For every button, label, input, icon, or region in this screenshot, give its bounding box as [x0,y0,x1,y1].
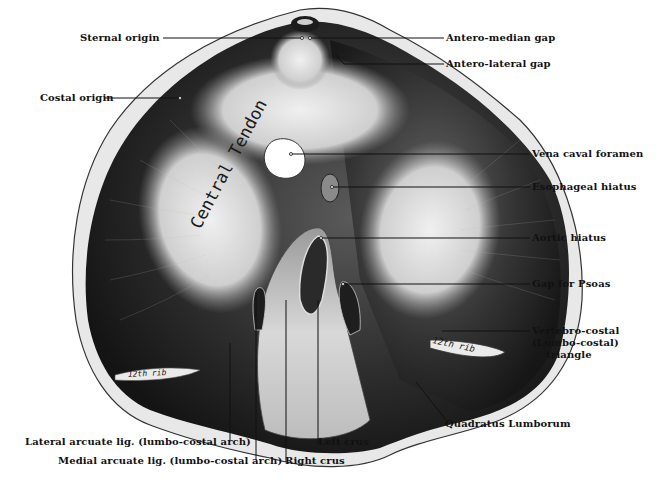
label-gap-for-psoas: Gap for Psoas [532,278,610,290]
label-vena-caval-foramen: Vena caval foramen [532,148,643,160]
esophageal-hiatus-shape [321,174,339,202]
label-aortic-hiatus: Aortic hiatus [532,232,606,244]
label-left-crus: Left crus [318,436,369,448]
label-antero-median-gap: Antero-median gap [446,32,555,44]
label-medial-arcuate-lig: Medial arcuate lig. (lumbo-costal arch) [58,455,282,467]
label-right-crus: Right crus [285,455,345,467]
label-lateral-arcuate-lig: Lateral arcuate lig. (lumbo-costal arch) [25,436,251,448]
vena-caval-foramen-shape [264,139,305,179]
label-antero-lateral-gap: Antero-lateral gap [446,58,551,70]
label-vertebro-costal-triangle: Vertebro-costal (Lumbo-costal) triangle [532,325,619,361]
label-esophageal-hiatus: Esophageal hiatus [532,181,637,193]
label-sternal-origin: Sternal origin [80,32,160,44]
label-costal-origin: Costal origin [40,92,114,104]
label-quadratus-lumborum: Quadratus Lumborum [445,418,571,430]
diaphragm-figure: Central Tendon 12th rib 12th rib [0,0,669,492]
